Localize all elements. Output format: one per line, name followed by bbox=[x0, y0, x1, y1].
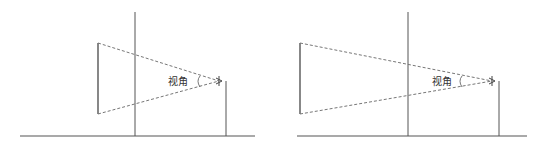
angle-label: 视角 bbox=[168, 75, 188, 87]
diagram-right: 视角 bbox=[297, 12, 527, 136]
viewing-angle-diagrams: 视角 视角 bbox=[0, 0, 542, 148]
angle-arc bbox=[460, 76, 462, 87]
angle-arc bbox=[198, 76, 200, 87]
sight-line-bottom bbox=[300, 81, 492, 114]
sight-line-bottom bbox=[98, 81, 219, 114]
angle-label: 视角 bbox=[432, 75, 452, 87]
sight-line-top bbox=[300, 43, 492, 81]
diagram-left: 视角 bbox=[20, 12, 255, 136]
sight-line-top bbox=[98, 43, 219, 81]
eye-icon bbox=[216, 76, 222, 86]
